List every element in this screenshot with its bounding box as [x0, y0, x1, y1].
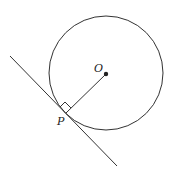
label-p: P [57, 116, 64, 127]
right-angle-marker [60, 102, 71, 108]
radius-op [66, 74, 106, 113]
tangent-diagram [0, 0, 172, 179]
label-o: O [94, 63, 103, 74]
center-dot [104, 72, 108, 76]
